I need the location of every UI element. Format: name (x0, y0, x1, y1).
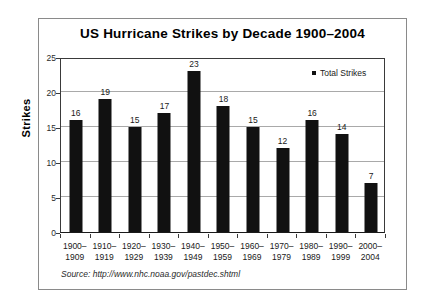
bar-value-label: 19 (101, 87, 110, 97)
bar-value-label: 16 (71, 108, 80, 118)
y-tick-mark (56, 198, 60, 199)
bar-slot: 7 (356, 59, 386, 232)
bar (335, 134, 348, 232)
bar (128, 127, 141, 232)
x-tick-label: 1960–1969 (237, 241, 267, 263)
bar-slot: 23 (179, 59, 209, 232)
bar-value-label: 7 (369, 171, 374, 181)
y-tick-label: 25 (30, 53, 56, 63)
x-tick-mark (60, 234, 61, 238)
x-tick-label: 1980–1989 (296, 241, 326, 263)
x-tick-mark (237, 234, 238, 238)
bar-slot: 12 (268, 59, 298, 232)
y-tick-label: 20 (30, 88, 56, 98)
chart-legend: Total Strikes (312, 68, 366, 78)
bar (69, 120, 82, 232)
bar-slot: 16 (297, 59, 327, 232)
x-tick-mark (178, 234, 179, 238)
x-tick-mark (296, 234, 297, 238)
chart-title: US Hurricane Strikes by Decade 1900–2004 (38, 26, 407, 41)
x-tick-mark (208, 234, 209, 238)
x-tick-label: 1990–1999 (326, 241, 356, 263)
bar-slot: 17 (150, 59, 180, 232)
x-tick-mark (119, 234, 120, 238)
legend-label-total-strikes: Total Strikes (320, 68, 366, 78)
x-tick-label: 1930–1939 (149, 241, 179, 263)
bar-slot: 16 (61, 59, 91, 232)
x-tick-label: 1900–1909 (60, 241, 90, 263)
bar-value-label: 18 (219, 94, 228, 104)
y-tick-label: 5 (30, 193, 56, 203)
x-tick-label: 1920–1929 (119, 241, 149, 263)
x-tick-label: 1950–1959 (208, 241, 238, 263)
x-tick-label: 1910–1919 (90, 241, 120, 263)
x-tick-mark (267, 234, 268, 238)
bar-value-label: 14 (337, 122, 346, 132)
bar-slot: 15 (238, 59, 268, 232)
bar-value-label: 16 (307, 108, 316, 118)
y-tick-label: 15 (30, 123, 56, 133)
bar-slot: 15 (120, 59, 150, 232)
bar (99, 99, 112, 232)
bar-series: 161915172318151216147 (61, 59, 384, 232)
bar (365, 183, 378, 232)
x-tick-label: 1970–1979 (267, 241, 297, 263)
bar-value-label: 17 (160, 101, 169, 111)
bar (306, 120, 319, 232)
x-tick-mark (326, 234, 327, 238)
bar-slot: 19 (91, 59, 121, 232)
x-tick-label: 1940–1949 (178, 241, 208, 263)
bar (187, 71, 200, 232)
bar-value-label: 23 (189, 59, 198, 69)
source-note: Source: http://www.nhc.noaa.gov/pastdec.… (61, 269, 240, 279)
bar (158, 113, 171, 232)
bar (276, 148, 289, 232)
y-tick-label: 0 (30, 228, 56, 238)
x-tick-mark (385, 234, 386, 238)
bar-value-label: 15 (248, 115, 257, 125)
x-tick-mark (149, 234, 150, 238)
y-tick-mark (56, 93, 60, 94)
bar-slot: 14 (327, 59, 357, 232)
y-tick-mark (56, 128, 60, 129)
x-tick-mark (355, 234, 356, 238)
bar-value-label: 12 (278, 136, 287, 146)
bar-slot: 18 (209, 59, 239, 232)
y-tick-label: 10 (30, 158, 56, 168)
chart-figure: US Hurricane Strikes by Decade 1900–2004… (0, 0, 437, 304)
legend-swatch-total-strikes (312, 71, 316, 75)
x-tick-label: 2000–2004 (355, 241, 385, 263)
x-tick-mark (90, 234, 91, 238)
y-tick-mark (56, 163, 60, 164)
y-tick-mark (56, 58, 60, 59)
bar (247, 127, 260, 232)
plot-area: 161915172318151216147 (60, 58, 385, 233)
bar (217, 106, 230, 232)
bar-value-label: 15 (130, 115, 139, 125)
